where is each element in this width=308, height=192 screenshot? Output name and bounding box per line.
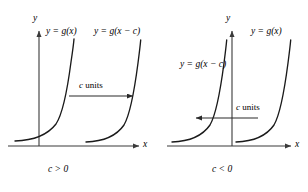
right-panel-base-curve [236,40,291,142]
left-panel-units-word: units [85,80,103,90]
left-panel-shifted-curve-label: y = g(x − c) [94,27,140,37]
left-panel-shift-annotation-label: c units [79,81,103,90]
left-panel-y-axis-label: y [33,14,37,24]
left-panel-x-axis-label: x [143,140,147,150]
left-panel-base-curve [15,39,74,141]
left-panel-base-curve-label: y = g(x) [46,27,77,37]
right-panel-shifted-curve-label: y = g(x − c) [180,60,226,70]
right-panel-y-axis-label: y [226,14,230,24]
right-panel-units-word: units [242,102,260,112]
left-panel-shifted-curve [86,40,141,142]
right-panel-caption: c < 0 [212,165,232,175]
right-panel-shifted-curve [172,40,227,142]
left-panel-caption: c > 0 [48,165,68,175]
right-panel-x-axis-label: x [295,140,299,150]
right-panel-shift-annotation-label: c units [236,103,260,112]
left-panel [8,31,141,146]
right-panel [167,31,291,146]
right-panel-base-curve-label: y = g(x) [251,27,282,37]
